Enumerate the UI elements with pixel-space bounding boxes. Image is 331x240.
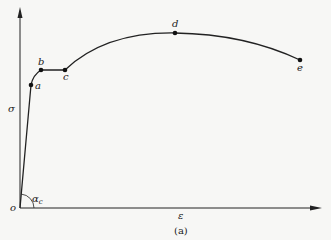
point-d xyxy=(173,31,178,36)
point-b xyxy=(39,68,44,73)
label-d: d xyxy=(172,18,178,29)
label-c: c xyxy=(63,71,69,82)
figure-caption: (a) xyxy=(174,225,188,236)
label-e: e xyxy=(297,62,303,73)
stress-strain-curve xyxy=(20,33,300,208)
y-axis-arrow-icon xyxy=(18,7,23,18)
x-axis-label: ε xyxy=(178,210,183,221)
point-a xyxy=(29,83,34,88)
label-a: a xyxy=(35,80,41,91)
angle-subscript: c xyxy=(39,198,43,206)
label-b: b xyxy=(38,56,44,67)
y-axis-label: σ xyxy=(8,103,16,114)
x-axis-arrow-icon xyxy=(310,206,322,211)
stress-strain-diagram: a b c d e σ ε o αc (a) xyxy=(0,0,331,240)
origin-label: o xyxy=(10,202,16,213)
